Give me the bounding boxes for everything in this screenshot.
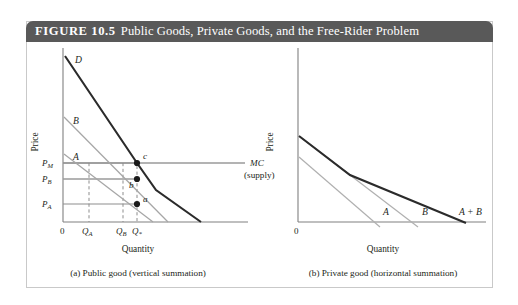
panel-a-ytick-PM: PM [41, 158, 54, 169]
panel-a: D B A c b a PM PB PA 0 QA QB Q* MC (supp… [30, 48, 275, 278]
panel-a-point-b [134, 176, 140, 182]
panel-b-x-axis-title: Quantity [367, 244, 400, 254]
panel-b-caption: (b) Private good (horizontal summation) [309, 268, 458, 278]
panel-a-xtick-QA: QA [82, 226, 94, 237]
panel-a-x-axis-title: Quantity [122, 244, 155, 254]
figure-root: FIGURE 10.5Public Goods, Private Goods, … [0, 0, 518, 305]
panel-a-xtick-Qstar: Q* [132, 226, 143, 237]
panel-a-label-B: B [73, 115, 79, 126]
panel-a-label-D: D [74, 54, 82, 65]
panel-b-y-axis-title: Price [265, 132, 275, 151]
panel-a-y-axis-title: Price [30, 132, 40, 151]
figure-banner-text: FIGURE 10.5Public Goods, Private Goods, … [26, 24, 419, 39]
panel-a-point-a [134, 201, 140, 207]
panel-a-label-A: A [72, 151, 79, 162]
panel-a-ytick-PB: PB [41, 174, 52, 185]
panel-a-ytick-PA: PA [41, 199, 53, 210]
panel-a-mc-label: MC [249, 158, 265, 168]
panel-b-label-B: B [422, 206, 428, 217]
panel-a-mc-sublabel: (supply) [244, 170, 275, 180]
panel-b-origin-label: 0 [294, 226, 299, 236]
panel-a-xtick-QB: QB [116, 226, 127, 237]
figure-charts: D B A c b a PM PB PA 0 QA QB Q* MC (supp… [26, 42, 493, 288]
figure-title: Public Goods, Private Goods, and the Fre… [121, 24, 419, 38]
panel-b-label-AplusB: A + B [458, 206, 482, 217]
panel-a-ptlabel-a: a [143, 194, 148, 204]
panel-a-caption: (a) Public good (vertical summation) [70, 268, 206, 278]
panel-a-point-c [134, 160, 140, 166]
panel-a-ptlabel-b: b [129, 180, 134, 190]
figure-number: FIGURE 10.5 [35, 24, 116, 38]
panel-b-label-A: A [382, 206, 389, 217]
figure-banner: FIGURE 10.5Public Goods, Private Goods, … [26, 21, 493, 42]
panel-a-origin-label: 0 [60, 226, 65, 236]
panel-a-ptlabel-c: c [143, 151, 147, 161]
panel-b: A B A + B 0 Quantity Price (b) Private g… [265, 48, 486, 278]
